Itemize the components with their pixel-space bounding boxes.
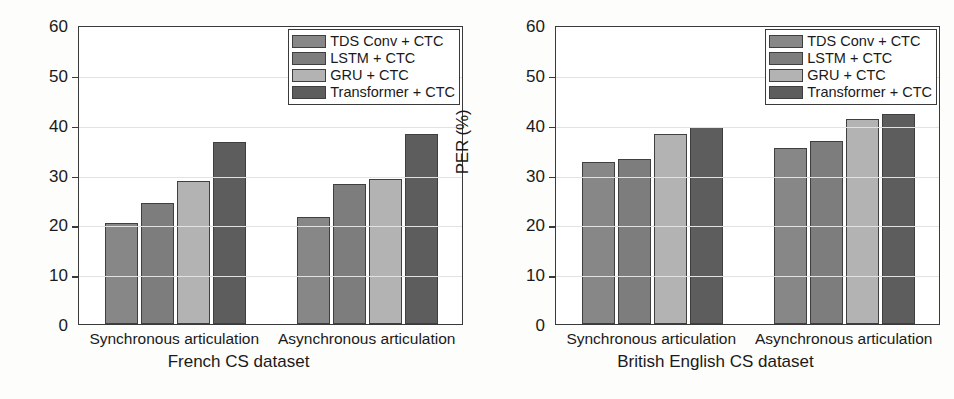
legend-row: GRU + CTC [769,67,932,84]
legend-row: LSTM + CTC [769,50,932,67]
y-tick-label: 10 [526,266,545,286]
y-tick-label: 60 [49,17,68,37]
bar [141,203,174,324]
y-tick-label: 60 [526,17,545,37]
y-axis-tick [72,77,79,79]
legend-label: TDS Conv + CTC [330,34,443,49]
x-category-label-asynchronous: Asynchronous articulation [267,330,467,348]
plot-area-french: TDS Conv + CTCLSTM + CTCGRU + CTCTransfo… [78,26,463,325]
panel-french-cs-dataset: PER (%) TDS Conv + CTCLSTM + CTCGRU + CT… [0,0,477,399]
x-axis-title-french: French CS dataset [0,352,477,372]
legend-label: LSTM + CTC [807,51,892,66]
y-axis-tick [72,276,79,278]
y-gridline [79,127,462,128]
legend-row: TDS Conv + CTC [292,33,455,50]
legend-row: Transformer + CTC [769,84,932,101]
y-axis-tick [72,177,79,179]
y-gridline [556,226,939,227]
legend-swatch [292,69,326,82]
bar [213,142,246,324]
legend-label: TDS Conv + CTC [807,34,920,49]
legend-swatch [769,69,803,82]
bar [105,223,138,324]
x-category-label-synchronous: Synchronous articulation [74,330,274,348]
bar [177,181,210,324]
legend-row: GRU + CTC [292,67,455,84]
bar [582,162,615,324]
y-tick-label: 30 [526,166,545,186]
y-axis-tick [549,77,556,79]
x-category-label-synchronous: Synchronous articulation [551,330,751,348]
bar [297,217,330,324]
legend-swatch [769,35,803,48]
y-tick-label: 40 [526,116,545,136]
y-tick-label: 40 [49,116,68,136]
y-tick-label: 0 [59,316,68,336]
legend-row: TDS Conv + CTC [769,33,932,50]
legend-label: GRU + CTC [807,68,886,83]
y-axis-tick [549,177,556,179]
bar [810,141,843,324]
y-gridline [556,276,939,277]
y-tick-label: 30 [49,166,68,186]
y-tick-label: 20 [49,216,68,236]
bar [405,134,438,324]
y-axis-tick [549,226,556,228]
legend-british-english: TDS Conv + CTCLSTM + CTCGRU + CTCTransfo… [765,29,937,105]
y-tick-label: 0 [536,316,545,336]
y-axis-tick [549,127,556,129]
legend-row: LSTM + CTC [292,50,455,67]
figure-two-panel-bar-charts: PER (%) TDS Conv + CTCLSTM + CTCGRU + CT… [0,0,954,399]
legend-swatch [292,86,326,99]
bar [882,114,915,324]
legend-swatch [769,86,803,99]
y-gridline [556,177,939,178]
legend-label: LSTM + CTC [330,51,415,66]
y-gridline [79,226,462,227]
bar [774,148,807,324]
bar [618,159,651,324]
y-gridline [556,127,939,128]
y-gridline [79,177,462,178]
bar [654,134,687,324]
bar [846,119,879,324]
legend-label: GRU + CTC [330,68,409,83]
legend-label: Transformer + CTC [807,85,932,100]
legend-swatch [292,35,326,48]
legend-swatch [769,52,803,65]
panel-british-english-cs-dataset: PER (%) TDS Conv + CTCLSTM + CTCGRU + CT… [477,0,954,399]
plot-area-british-english: TDS Conv + CTCLSTM + CTCGRU + CTCTransfo… [555,26,940,325]
y-tick-label: 20 [526,216,545,236]
bar [369,179,402,325]
x-category-label-asynchronous: Asynchronous articulation [744,330,944,348]
legend-swatch [292,52,326,65]
y-axis-tick [72,127,79,129]
legend-row: Transformer + CTC [292,84,455,101]
y-gridline [79,276,462,277]
y-axis-tick [72,226,79,228]
y-tick-label: 50 [49,66,68,86]
y-axis-tick [549,276,556,278]
bar [333,184,366,324]
legend-label: Transformer + CTC [330,85,455,100]
y-tick-label: 10 [49,266,68,286]
legend-french: TDS Conv + CTCLSTM + CTCGRU + CTCTransfo… [288,29,460,105]
y-tick-label: 50 [526,66,545,86]
x-axis-title-british-english: British English CS dataset [477,352,954,372]
